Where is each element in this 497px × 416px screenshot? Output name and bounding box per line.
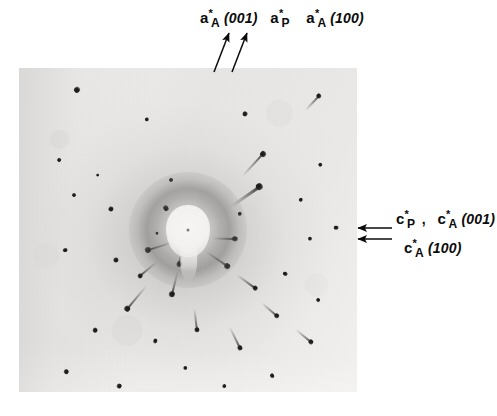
miller-index-001: (001) [461, 211, 495, 227]
symbol-a: a [200, 9, 209, 26]
spot-head [242, 111, 248, 117]
right-label-row-2: c*A(100) [404, 240, 462, 255]
label-a-star-A-100: a*A(100) [306, 9, 364, 26]
beam-center-marker [187, 229, 190, 232]
symbol-c: c [437, 210, 446, 227]
label-c-star-A-001: c*A(001) [437, 210, 495, 227]
miller-index-001: (001) [224, 10, 258, 26]
symbol-a: a [306, 9, 315, 26]
subscript-P: P [407, 217, 415, 231]
spot-head [144, 116, 150, 122]
spot-head [71, 192, 76, 197]
diffraction-figure: a*A(001) a*P a*A(100) c*P , c*A(001) c*A… [0, 0, 497, 416]
subscript-A: A [415, 246, 424, 260]
label-separator-comma: , [422, 211, 426, 227]
miller-index-100: (100) [428, 240, 462, 256]
symbol-c: c [396, 210, 405, 227]
label-a-star-A-001: a*A(001) [200, 9, 258, 26]
subscript-A: A [211, 16, 220, 30]
spot-head [113, 257, 119, 263]
subscript-P: P [281, 16, 289, 30]
spot-head [63, 248, 68, 253]
symbol-c: c [404, 239, 413, 256]
subscript-A: A [449, 217, 458, 231]
arrow-top-right [232, 33, 247, 72]
symbol-a: a [270, 9, 279, 26]
top-label-row: a*A(001) a*P a*A(100) [200, 10, 364, 25]
subscript-A: A [317, 16, 326, 30]
right-label-row-1: c*P , c*A(001) [396, 211, 495, 226]
label-c-star-A-100: c*A(100) [404, 239, 462, 256]
spot-head [96, 173, 101, 178]
label-c-star-P: c*P [396, 210, 417, 227]
spot-head [57, 158, 62, 163]
label-a-star-P: a*P [270, 9, 291, 26]
miller-index-100: (100) [330, 10, 364, 26]
diffraction-film [19, 68, 357, 392]
spot-head [108, 206, 114, 212]
arrow-top-left [214, 33, 229, 72]
